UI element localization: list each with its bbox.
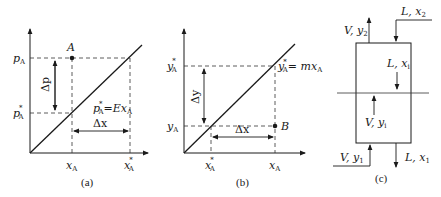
label-gas-in: V, y1 (340, 151, 364, 165)
caption-a: (a) (81, 176, 94, 189)
caption-b: (b) (236, 176, 249, 189)
equilibrium-line (30, 45, 142, 153)
panel-a: pA p*A A Δp p*A=ExA Δx xA x*A (a) (13, 29, 148, 189)
caption-c: (c) (375, 172, 388, 185)
label-delta-x-b: Δx (235, 123, 250, 136)
tick-pA: pA (13, 52, 26, 66)
tick-xA-star: x*A (124, 156, 135, 173)
label-delta-y: Δy (189, 89, 202, 104)
label-equation-b: y*A= mxA (277, 58, 323, 74)
tick-xA-star: x*A (205, 156, 216, 173)
label-B: B (280, 120, 289, 133)
label-equation-a: p*A=ExA (93, 100, 133, 116)
panel-c: V, y2 L, x2 L, xi V, yi V, y1 L, x1 (c) (333, 5, 432, 185)
tick-pA-star: p*A (13, 104, 25, 121)
label-gas-out: V, y2 (344, 24, 368, 38)
label-liquid-in: L, x2 (400, 5, 426, 19)
point-A (70, 56, 75, 61)
point-B (273, 124, 278, 129)
tick-yA: yA (166, 120, 179, 134)
tick-xA: xA (269, 159, 281, 173)
label-liquid-out: L, x1 (404, 151, 430, 165)
figure-canvas: pA p*A A Δp p*A=ExA Δx xA x*A (a) y*A yA… (0, 0, 441, 197)
label-liquid-internal: L, xi (386, 57, 411, 71)
panel-b: y*A yA Δy y*A= mxA B Δx x*A xA (b) (166, 29, 323, 189)
liquid-inlet-arrow (396, 20, 432, 41)
label-A: A (66, 41, 75, 54)
tick-yA-star: y*A (166, 57, 178, 74)
label-delta-x-a: Δx (93, 117, 108, 130)
label-delta-p: Δp (39, 77, 52, 92)
label-gas-internal: V, yi (365, 116, 387, 130)
tick-xA: xA (66, 159, 78, 173)
